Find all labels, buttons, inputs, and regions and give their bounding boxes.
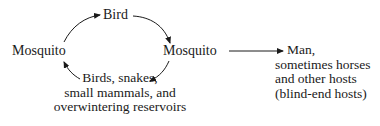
- dead-end-line-4: (blind-end hosts): [275, 87, 371, 102]
- node-dead-end-hosts: Man, sometimes horses and other hosts (b…: [275, 43, 371, 101]
- node-bird: Bird: [103, 7, 128, 22]
- reservoirs-line-2: small mammals, and: [40, 86, 200, 101]
- reservoirs-line-3: overwintering reservoirs: [40, 100, 200, 115]
- arrow-mosquito-to-bird: [64, 15, 100, 42]
- reservoirs-line-1: Birds, snakes,: [40, 71, 200, 86]
- dead-end-line-2: sometimes horses: [275, 58, 371, 73]
- node-mosquito-right: Mosquito: [163, 43, 217, 58]
- node-mosquito-left: Mosquito: [12, 43, 66, 58]
- dead-end-line-1: Man,: [275, 43, 371, 58]
- node-reservoirs: Birds, snakes, small mammals, and overwi…: [40, 71, 200, 115]
- dead-end-line-3: and other hosts: [275, 72, 371, 87]
- arrow-bird-to-mosquito: [133, 16, 170, 43]
